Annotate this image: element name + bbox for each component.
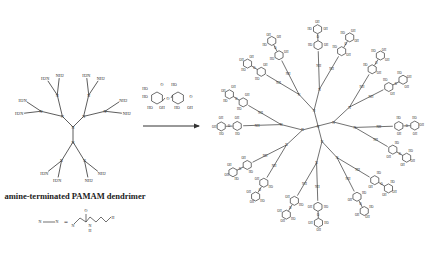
svg-text:OH: OH bbox=[404, 85, 409, 89]
svg-text:OH: OH bbox=[346, 53, 351, 57]
svg-text:NH: NH bbox=[376, 125, 381, 129]
svg-text:NH2: NH2 bbox=[56, 73, 64, 78]
svg-text:HO: HO bbox=[241, 68, 246, 72]
svg-text:OH: OH bbox=[247, 190, 252, 194]
svg-text:OH: OH bbox=[316, 228, 321, 232]
svg-text:N: N bbox=[60, 158, 63, 163]
svg-text:O: O bbox=[360, 202, 363, 206]
svg-text:O: O bbox=[259, 188, 262, 192]
svg-text:HO: HO bbox=[408, 149, 413, 153]
svg-text:H2N: H2N bbox=[82, 73, 90, 78]
svg-text:N: N bbox=[72, 223, 75, 228]
svg-text:HO: HO bbox=[341, 31, 346, 35]
glycodendrimer: NNNNHOOHHOOHHOOHNHOOHHOOHHOOHNNHOOHHOOHH… bbox=[212, 20, 425, 232]
svg-text:HO: HO bbox=[269, 185, 274, 189]
svg-text:O: O bbox=[253, 66, 256, 70]
svg-text:HO: HO bbox=[362, 191, 367, 195]
svg-text:O: O bbox=[317, 213, 320, 217]
svg-text:OH: OH bbox=[365, 215, 370, 219]
svg-text:OH: OH bbox=[250, 200, 255, 204]
svg-text:OH: OH bbox=[227, 163, 232, 167]
svg-text:OH: OH bbox=[308, 205, 313, 209]
svg-text:HO: HO bbox=[395, 141, 400, 145]
svg-text:HO: HO bbox=[223, 99, 228, 103]
svg-text:NH2: NH2 bbox=[97, 76, 105, 81]
svg-text:HO: HO bbox=[249, 170, 254, 174]
svg-text:HO: HO bbox=[234, 177, 239, 181]
svg-text:OH: OH bbox=[407, 75, 412, 79]
svg-text:OH: OH bbox=[385, 58, 390, 62]
svg-text:O: O bbox=[235, 97, 238, 101]
svg-text:OH: OH bbox=[400, 163, 405, 167]
svg-text:HO: HO bbox=[412, 116, 417, 120]
svg-text:OH: OH bbox=[277, 209, 282, 213]
svg-text:HO: HO bbox=[262, 43, 267, 47]
svg-text:O: O bbox=[167, 96, 170, 101]
reaction-arrow bbox=[143, 124, 200, 129]
svg-text:OH: OH bbox=[219, 116, 224, 120]
svg-text:O: O bbox=[289, 206, 292, 210]
svg-text:NH: NH bbox=[272, 164, 277, 168]
svg-text:HO: HO bbox=[383, 78, 388, 82]
svg-text:O: O bbox=[345, 42, 348, 46]
reaction-diagram: NNNH2NH2NNH2NNH2NNH2NNH2NNH2NH2NNNH2NH2N… bbox=[0, 0, 445, 256]
svg-text:OH: OH bbox=[411, 159, 416, 163]
svg-text:HO: HO bbox=[171, 83, 177, 87]
svg-text:HO: HO bbox=[142, 87, 148, 91]
svg-text:OH: OH bbox=[212, 125, 217, 129]
svg-text:O: O bbox=[161, 82, 164, 87]
svg-text:OH: OH bbox=[315, 20, 320, 24]
svg-text:HO: HO bbox=[333, 45, 338, 49]
svg-text:HO: HO bbox=[237, 107, 242, 111]
svg-text:NH2: NH2 bbox=[123, 111, 131, 116]
svg-text:HO: HO bbox=[255, 77, 260, 81]
svg-text:H2N: H2N bbox=[40, 171, 48, 176]
svg-text:HO: HO bbox=[397, 71, 402, 75]
svg-text:HO: HO bbox=[371, 49, 376, 53]
svg-text:OH: OH bbox=[351, 29, 356, 33]
svg-text:H: H bbox=[112, 215, 115, 220]
svg-text:OH: OH bbox=[249, 55, 254, 59]
svg-text:O: O bbox=[381, 182, 384, 186]
svg-text:NH2: NH2 bbox=[98, 171, 106, 176]
svg-text:NH: NH bbox=[286, 72, 291, 76]
svg-text:O: O bbox=[395, 82, 398, 86]
svg-text:OH: OH bbox=[382, 193, 387, 197]
svg-text:OH: OH bbox=[390, 92, 395, 96]
svg-text:HO: HO bbox=[369, 205, 374, 209]
svg-text:OH: OH bbox=[245, 93, 250, 97]
svg-text:HO: HO bbox=[308, 43, 313, 47]
svg-text:NH2: NH2 bbox=[85, 178, 93, 183]
svg-text:H2N: H2N bbox=[15, 111, 23, 116]
svg-text:HO: HO bbox=[396, 116, 401, 120]
svg-text:OH: OH bbox=[397, 132, 402, 136]
svg-text:O: O bbox=[239, 167, 242, 171]
svg-text:HO: HO bbox=[235, 132, 240, 136]
svg-text:OH: OH bbox=[159, 106, 165, 110]
svg-text:HO: HO bbox=[324, 221, 329, 225]
svg-text:OH: OH bbox=[323, 27, 328, 31]
svg-text:HO: HO bbox=[363, 63, 368, 67]
svg-text:HO: HO bbox=[142, 95, 148, 99]
svg-text:NH2: NH2 bbox=[119, 98, 127, 103]
svg-text:OH: OH bbox=[231, 85, 236, 89]
svg-text:HO: HO bbox=[270, 57, 275, 61]
svg-text:NH: NH bbox=[302, 182, 307, 186]
svg-text:HO: HO bbox=[324, 205, 329, 209]
svg-text:H2N: H2N bbox=[19, 98, 27, 103]
svg-text:NH: NH bbox=[255, 124, 260, 128]
svg-text:HO: HO bbox=[299, 203, 304, 207]
svg-text:HO: HO bbox=[390, 180, 395, 184]
svg-text:OH: OH bbox=[277, 35, 282, 39]
svg-text:O: O bbox=[375, 61, 378, 65]
dendrimer-caption: amine-terminated PAMAM dendrimer bbox=[0, 191, 150, 201]
repeat-unit-legend: NN=NONHH bbox=[39, 208, 115, 233]
svg-text:OH: OH bbox=[266, 33, 271, 37]
svg-text:O: O bbox=[274, 46, 277, 50]
svg-text:OH: OH bbox=[187, 106, 193, 110]
svg-text:OH: OH bbox=[324, 43, 329, 47]
svg-text:OH: OH bbox=[348, 198, 353, 202]
svg-text:OH: OH bbox=[285, 195, 290, 199]
svg-text:OH: OH bbox=[235, 116, 240, 120]
svg-text:OH: OH bbox=[368, 185, 373, 189]
